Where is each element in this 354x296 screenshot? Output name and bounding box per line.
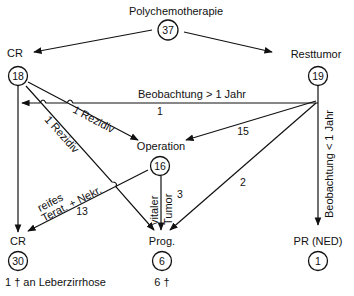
edge-cr-rezidiv-op-label: 1 Rezidiv: [71, 103, 117, 135]
edge-start-to-cr: [34, 30, 152, 52]
edge-obs-gt-1yr-label: Beobachtung > 1 Jahr: [138, 88, 246, 100]
node-resttumor: Resttumor 19: [291, 48, 342, 86]
node-resttumor-label: Resttumor: [291, 48, 342, 60]
node-prog-label: Prog.: [149, 235, 175, 247]
node-pr-ned-label: PR (NED): [294, 235, 343, 247]
node-prog: Prog. 6 6 †: [149, 235, 175, 288]
node-cr-initial: CR 18: [7, 47, 27, 86]
treatment-flow-diagram: Polychemotherapie 37 CR 18 Resttumor 19 …: [0, 0, 354, 296]
node-cr-initial-label: CR: [7, 47, 23, 59]
node-operation-label: Operation: [137, 140, 185, 152]
node-prog-note: 6 †: [154, 276, 169, 288]
edge-rest-to-op-value: 15: [237, 125, 249, 137]
node-operation-count: 16: [154, 160, 166, 172]
node-pr-ned-count: 1: [315, 255, 321, 267]
node-start: Polychemotherapie 37: [129, 5, 223, 40]
node-operation: Operation 16: [137, 140, 185, 176]
edge-resttumor-to-prog: [170, 103, 316, 230]
edge-obs-gt-1yr-value: 1: [157, 105, 163, 117]
node-cr-final-count: 30: [12, 255, 24, 267]
node-cr-final: CR 30 1 † an Leberzirrhose: [5, 235, 106, 288]
edge-obs-lt-1yr-label: Beobachtung < 1 Jahr: [323, 110, 335, 218]
node-prog-count: 6: [159, 255, 165, 267]
node-cr-final-label: CR: [10, 235, 26, 247]
edge-op-to-prog-label-1: vitaler: [148, 195, 160, 225]
edge-rest-to-prog-value: 2: [240, 176, 246, 188]
node-pr-ned: PR (NED) 1: [294, 235, 343, 271]
node-cr-initial-count: 18: [12, 70, 24, 82]
node-start-count: 37: [162, 24, 174, 36]
edge-cr-rezidiv-prog-label: 1 Rezidiv: [43, 113, 83, 155]
node-cr-final-note: 1 † an Leberzirrhose: [5, 276, 106, 288]
edge-op-to-cr-value: 13: [76, 205, 88, 217]
edge-start-to-resttumor: [184, 32, 272, 52]
edge-op-to-prog-label-2: Tumor: [162, 193, 174, 225]
node-start-label: Polychemotherapie: [129, 5, 223, 17]
edge-op-to-prog-value: 3: [177, 188, 183, 200]
node-resttumor-count: 19: [312, 70, 324, 82]
